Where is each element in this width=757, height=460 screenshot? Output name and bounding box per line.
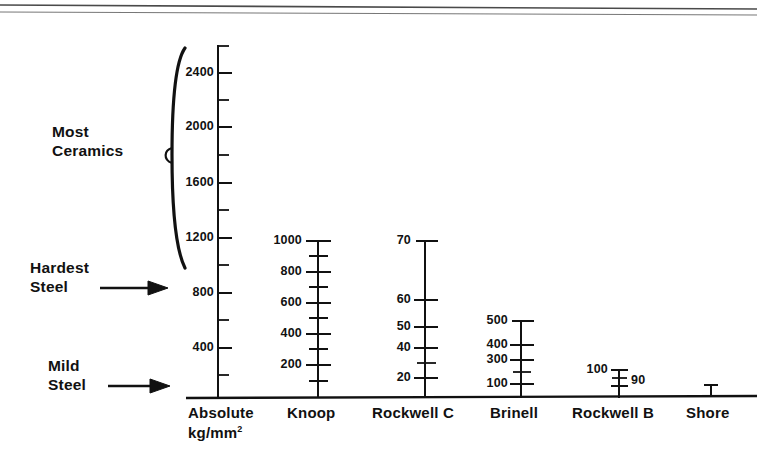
axis-caption-rockwell-c: Rockwell C xyxy=(372,404,454,421)
annotation-hardest-steel: Hardest Steel xyxy=(30,258,89,296)
axis-caption-knoop: Knoop xyxy=(287,404,335,421)
axis-absolute xyxy=(218,45,232,398)
mild-steel-arrow xyxy=(108,379,170,393)
tick-label-abs-1600: 1600 xyxy=(172,175,214,189)
axis-unit-superscript: 2 xyxy=(237,424,242,434)
annotation-most-ceramics: Most Ceramics xyxy=(52,122,123,160)
tick-label-knoop-200: 200 xyxy=(258,357,302,371)
tick-label-rc-60: 60 xyxy=(375,292,411,306)
tick-label-rc-40: 40 xyxy=(375,340,411,354)
hardness-scale-figure: Most Ceramics Hardest Steel Mild Steel 2… xyxy=(0,0,757,460)
axis-knoop xyxy=(306,240,331,398)
axis-caption-brinell: Brinell xyxy=(490,404,538,421)
top-rules xyxy=(0,5,757,15)
axis-shore xyxy=(704,384,718,396)
tick-label-rb-90: 90 xyxy=(631,373,661,387)
top-rule-1 xyxy=(0,5,757,9)
tick-label-abs-800: 800 xyxy=(172,285,214,299)
axis-caption-absolute-unit: kg/mm2 xyxy=(188,424,243,441)
chart-baseline xyxy=(186,396,757,398)
annotation-most-ceramics-line2: Ceramics xyxy=(52,141,123,160)
tick-label-abs-1200: 1200 xyxy=(172,230,214,244)
tick-label-knoop-800: 800 xyxy=(258,264,302,278)
axis-brinell xyxy=(510,320,534,398)
tick-label-knoop-600: 600 xyxy=(258,295,302,309)
tick-label-knoop-1000: 1000 xyxy=(258,233,302,247)
axis-rockwell-c xyxy=(414,240,438,398)
axis-rockwell-b xyxy=(611,369,628,398)
tick-label-brinell-500: 500 xyxy=(470,313,508,327)
hardest-steel-arrow xyxy=(100,281,168,295)
tick-label-brinell-100: 100 xyxy=(470,376,508,390)
axis-caption-absolute: Absolute xyxy=(188,404,254,421)
annotation-arrows xyxy=(100,281,170,393)
axis-unit-main: kg/mm xyxy=(188,424,237,441)
annotation-mild-steel-line1: Mild xyxy=(48,356,86,375)
annotation-mild-steel: Mild Steel xyxy=(48,356,86,394)
top-rule-2 xyxy=(0,12,757,15)
tick-label-rc-20: 20 xyxy=(375,370,411,384)
axis-caption-shore: Shore xyxy=(686,404,730,421)
tick-label-knoop-400: 400 xyxy=(258,326,302,340)
chart-vector-layer xyxy=(0,0,757,460)
axis-caption-rockwell-b: Rockwell B xyxy=(572,404,654,421)
hardest-steel-arrow-head xyxy=(148,281,168,295)
tick-label-rc-70: 70 xyxy=(375,233,411,247)
tick-label-abs-2000: 2000 xyxy=(172,119,214,133)
tick-label-brinell-400: 400 xyxy=(470,337,508,351)
tick-label-rb-100: 100 xyxy=(570,362,608,376)
tick-label-brinell-300: 300 xyxy=(470,352,508,366)
annotation-hardest-steel-line1: Hardest xyxy=(30,258,89,277)
annotation-mild-steel-line2: Steel xyxy=(48,375,86,394)
mild-steel-arrow-head xyxy=(150,379,170,393)
tick-label-rc-50: 50 xyxy=(375,319,411,333)
annotation-most-ceramics-line1: Most xyxy=(52,122,123,141)
tick-label-abs-2400: 2400 xyxy=(172,65,214,79)
annotation-hardest-steel-line2: Steel xyxy=(30,277,89,296)
tick-label-abs-400: 400 xyxy=(172,340,214,354)
